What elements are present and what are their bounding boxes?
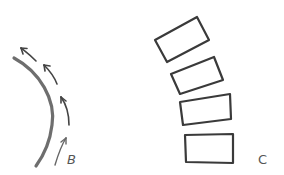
arrow-icon bbox=[21, 48, 36, 61]
rectangle-2 bbox=[171, 57, 223, 94]
panel-c: C bbox=[142, 0, 284, 175]
curve-with-arrows-drawing bbox=[0, 0, 142, 175]
arrow-icon bbox=[44, 65, 57, 84]
panel-label-c: C bbox=[258, 153, 267, 166]
curved-line bbox=[14, 58, 53, 166]
panel-label-b: B bbox=[67, 153, 76, 166]
rectangle-1 bbox=[155, 17, 209, 62]
arrow-icon bbox=[55, 138, 66, 165]
arrow-icon bbox=[61, 97, 69, 125]
rectangle-4 bbox=[185, 134, 233, 163]
panel-b: B bbox=[0, 0, 142, 175]
rectangle-3 bbox=[180, 94, 231, 125]
stacked-rectangles-drawing bbox=[142, 0, 284, 175]
